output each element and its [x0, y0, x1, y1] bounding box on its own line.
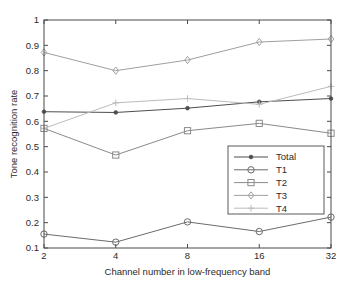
- y-tick-label: 0.7: [26, 90, 39, 101]
- x-axis-title: Channel number in low-frequency band: [105, 266, 271, 277]
- data-point-marker-dot: [249, 155, 253, 159]
- y-tick-label: 0.3: [26, 192, 39, 203]
- y-tick-label: 1: [34, 14, 39, 25]
- y-axis-title: Tone recognition rate: [8, 90, 19, 179]
- x-tick-label: 32: [326, 250, 337, 261]
- y-tick-label: 0.2: [26, 217, 39, 228]
- y-tick-label: 0.4: [26, 166, 39, 177]
- tone-recognition-line-chart: 0.10.20.30.40.50.60.70.80.91 2481632 Cha…: [0, 0, 351, 284]
- y-tick-label: 0.8: [26, 65, 39, 76]
- x-tick-label: 4: [113, 250, 118, 261]
- x-tick-label: 16: [254, 250, 265, 261]
- x-tick-label: 2: [41, 250, 46, 261]
- y-tick-label: 0.1: [26, 242, 39, 253]
- data-point-marker-dot: [186, 106, 190, 110]
- x-tick-label: 8: [185, 250, 190, 261]
- legend-label-t3: T3: [276, 190, 287, 201]
- legend-label-total: Total: [276, 151, 296, 162]
- chart-figure: 0.10.20.30.40.50.60.70.80.91 2481632 Cha…: [0, 0, 351, 284]
- legend-label-t1: T1: [276, 164, 287, 175]
- y-tick-label: 0.5: [26, 141, 39, 152]
- y-tick-label: 0.9: [26, 40, 39, 51]
- data-point-marker-dot: [114, 111, 118, 115]
- chart-legend: TotalT1T2T3T4: [228, 146, 324, 214]
- y-tick-label: 0.6: [26, 116, 39, 127]
- legend-label-t4: T4: [276, 203, 287, 214]
- legend-label-t2: T2: [276, 177, 287, 188]
